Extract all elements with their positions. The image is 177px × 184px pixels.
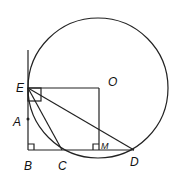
geometry-diagram: E O A M B C D	[0, 0, 177, 184]
label-e: E	[16, 82, 24, 94]
segment-ed	[28, 88, 134, 150]
diagram-canvas	[0, 0, 177, 184]
label-b: B	[24, 160, 32, 172]
right-angle-m	[93, 144, 99, 150]
label-o: O	[108, 76, 117, 88]
point-a-dot	[27, 118, 30, 121]
right-angle-b	[28, 144, 34, 150]
label-a: A	[13, 116, 21, 128]
label-m: M	[101, 140, 109, 152]
label-c: C	[58, 160, 67, 172]
label-d: D	[130, 156, 139, 168]
